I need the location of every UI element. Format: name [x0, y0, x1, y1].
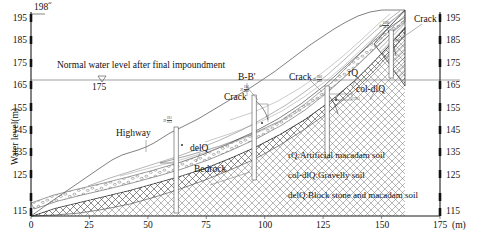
y-tick-left-135: 135: [3, 147, 27, 157]
rq-label: rQ: [348, 68, 358, 78]
delq-label: delQ: [190, 143, 208, 153]
borehole-dot-3: [335, 99, 337, 101]
x-tick-150: 150: [372, 220, 392, 230]
x-tick-125: 125: [313, 220, 333, 230]
legend-item-rq: rQ:Artificial macadam soil: [288, 150, 385, 160]
borehole-3: [325, 86, 329, 158]
bedrock-label: Bedrock: [194, 164, 226, 174]
x-axis-unit: (m): [452, 220, 476, 230]
borehole-dot-1: [181, 144, 183, 146]
x-tick-100: 100: [255, 220, 275, 230]
section-mark-label: B-B': [238, 72, 256, 82]
legend-item-coldlq: col-dlQ:Gravelly soil: [288, 170, 365, 180]
x-tick-75: 75: [196, 220, 216, 230]
crack-label-3: Crack: [414, 14, 437, 24]
y-tick-left-155: 155: [3, 103, 27, 113]
borehole-bracket-2: [257, 104, 268, 122]
axis-bottom: [31, 216, 440, 219]
y-tick-right-185: 185: [446, 35, 470, 45]
borehole-depth-3: 175.1: [353, 97, 360, 101]
x-tick-25: 25: [79, 220, 99, 230]
highway-label: Highway: [116, 128, 151, 138]
borehole-4: [389, 30, 393, 78]
borehole-dot-2: [261, 122, 263, 124]
geological-cross-section: [0, 0, 483, 242]
borehole-2-num: 29: [240, 88, 243, 92]
borehole-3-num: 29: [313, 78, 316, 82]
y-tick-left-115: 115: [3, 206, 27, 216]
borehole-2-fraction: 12.6 16.0: [244, 86, 249, 94]
borehole-1-num: 29: [163, 119, 166, 123]
borehole-2: [252, 95, 256, 180]
top-elevation-label: 198˝: [34, 2, 51, 12]
y-tick-right-125: 125: [446, 170, 470, 180]
y-tick-left-195: 195: [3, 13, 27, 23]
y-tick-left-185: 185: [3, 35, 27, 45]
y-tick-left-145: 145: [3, 125, 27, 135]
y-tick-left-175: 175: [3, 58, 27, 68]
y-tick-right-165: 165: [446, 80, 470, 90]
y-tick-right-195: 195: [446, 13, 470, 23]
y-tick-right-135: 135: [446, 147, 470, 157]
x-tick-0: 0: [21, 220, 41, 230]
borehole-1-fraction: 19.1 31.3: [167, 117, 172, 125]
legend-item-delq: delQ:Block stone and macadam soil: [288, 190, 418, 200]
borehole-label-3: 29 18.0 23.5: [313, 76, 322, 84]
borehole-3-fraction: 18.0 23.5: [317, 76, 322, 84]
y-tick-left-125: 125: [3, 170, 27, 180]
y-tick-right-145: 145: [446, 125, 470, 135]
y-tick-left-165: 165: [3, 80, 27, 90]
x-tick-175: 175: [430, 220, 450, 230]
borehole-label-4: zk 13.06 22.5: [379, 22, 389, 30]
crack-label-2: Crack: [289, 72, 312, 82]
y-tick-right-115: 115: [446, 206, 470, 216]
borehole-label-2: 29 12.6 16.0: [240, 86, 249, 94]
y-tick-right-175: 175: [446, 58, 470, 68]
borehole-4-num: zk: [379, 24, 382, 28]
borehole-label-1: 29 19.1 31.3: [163, 117, 172, 125]
water-level-text: Normal water level after final impoundme…: [57, 60, 225, 70]
coldlq-label: col-dlQ: [356, 84, 385, 94]
y-tick-right-155: 155: [446, 103, 470, 113]
water-level-value: 175: [92, 82, 106, 92]
borehole-4-fraction: 13.06 22.5: [382, 22, 389, 30]
x-tick-50: 50: [138, 220, 158, 230]
cross-section-body: [31, 10, 460, 216]
borehole-1: [174, 127, 178, 213]
